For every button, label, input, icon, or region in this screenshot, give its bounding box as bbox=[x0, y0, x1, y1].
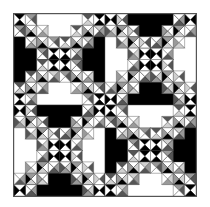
quilt-pattern bbox=[13, 13, 197, 197]
quilt-svg bbox=[14, 14, 196, 196]
quilt-block-bottom-right bbox=[105, 105, 196, 196]
quilt-block-top-right bbox=[105, 14, 196, 105]
quilt-block-top-left bbox=[14, 14, 105, 105]
quilt-block-bottom-left bbox=[14, 105, 105, 196]
